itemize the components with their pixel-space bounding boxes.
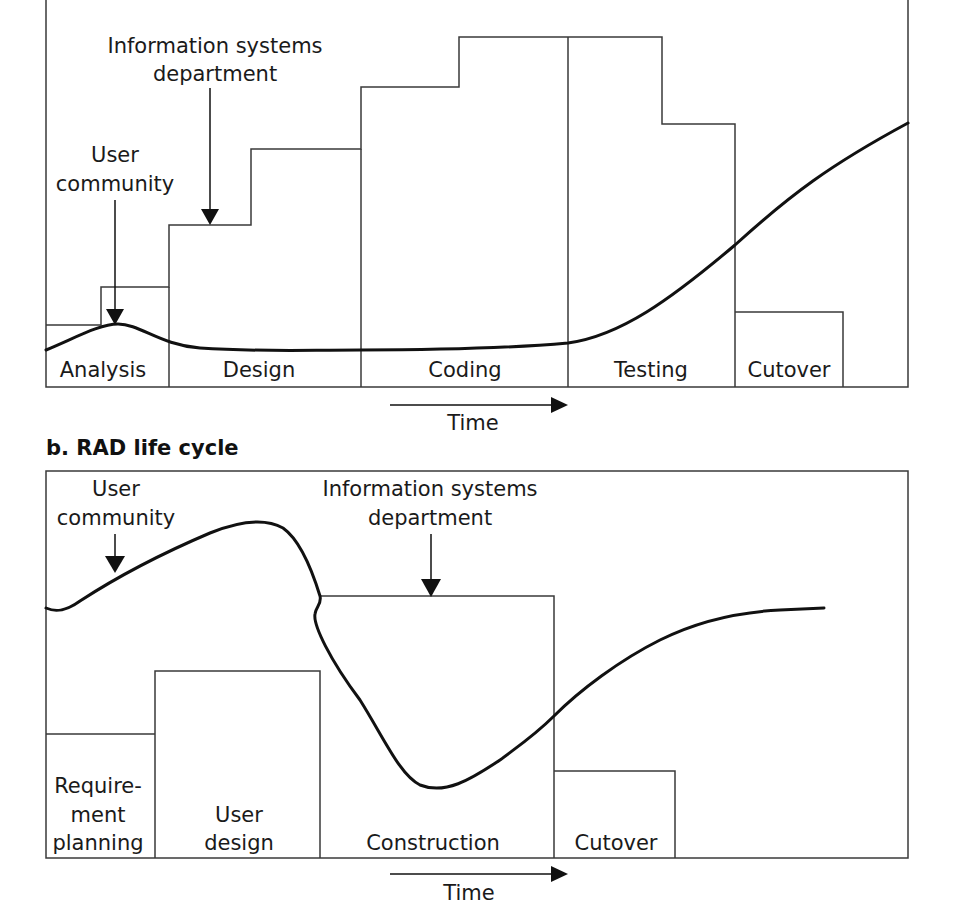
phase-label-design: Design: [223, 358, 296, 382]
phase-label-construction: Construction: [366, 831, 500, 855]
b-user-community-label-line1: User: [92, 477, 140, 501]
phase-label-user-design-line2: design: [204, 831, 274, 855]
panel-b-rad-life-cycle: b. RAD life cycle User community Informa…: [46, 436, 908, 905]
phase-label-coding: Coding: [428, 358, 501, 382]
b-is-department-arrow-head-icon: [421, 579, 441, 597]
phase-label-user-design-line1: User: [215, 803, 263, 827]
user-community-label-line1: User: [91, 143, 139, 167]
user-community-arrow-head-icon: [106, 309, 124, 325]
phase-label-cutover: Cutover: [747, 358, 830, 382]
is-department-arrow-head-icon: [201, 209, 219, 225]
panel-b-time-label: Time: [442, 881, 494, 905]
panel-b-is-effort-staircase: [46, 596, 675, 858]
phase-label-requirement-line2: ment: [71, 803, 126, 827]
phase-label-analysis: Analysis: [60, 358, 147, 382]
phase-label-requirement-line1: Require-: [54, 774, 142, 798]
phase-label-testing: Testing: [613, 358, 688, 382]
panel-a-is-effort-staircase: [46, 37, 843, 387]
is-department-label-line2: department: [153, 62, 277, 86]
phase-label-requirement-line3: planning: [52, 831, 143, 855]
panel-b-user-involvement-curve: [46, 522, 824, 788]
b-is-department-label-line2: department: [368, 506, 492, 530]
panel-a-frame: [46, 0, 908, 387]
b-user-community-label-line2: community: [57, 506, 175, 530]
phase-label-b-cutover: Cutover: [574, 831, 657, 855]
panel-b-title: b. RAD life cycle: [46, 436, 239, 460]
panel-a-user-involvement-curve: [46, 123, 908, 351]
b-is-department-label-line1: Information systems: [322, 477, 537, 501]
panel-a-time-label: Time: [446, 411, 498, 435]
panel-a-traditional-life-cycle: User community Information systems depar…: [46, 0, 908, 435]
lifecycle-diagram: User community Information systems depar…: [0, 0, 955, 920]
panel-a-time-arrow-head-icon: [551, 397, 568, 413]
b-user-community-arrow-head-icon: [105, 556, 125, 573]
user-community-label-line2: community: [56, 172, 174, 196]
panel-b-time-arrow-head-icon: [551, 866, 568, 882]
is-department-label-line1: Information systems: [107, 34, 322, 58]
